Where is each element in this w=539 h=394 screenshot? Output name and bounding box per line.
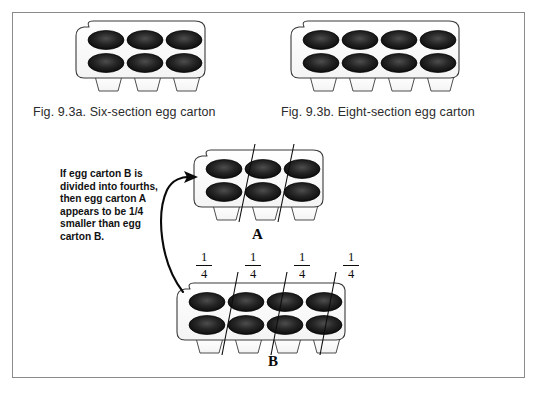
fraction-numerator: 1 [289,251,315,265]
carton-six-section-top-left [76,21,205,91]
carton-a [194,144,323,222]
caption-fig-9-3b: Fig. 9.3b. Eight-section egg carton [281,105,475,119]
annotation-note: If egg carton B is divided into fourths,… [60,168,164,244]
fraction-denominator: 4 [191,267,217,281]
carton-b [177,272,345,355]
fraction-denominator: 4 [289,267,315,281]
caption-fig-9-3a: Fig. 9.3a. Six-section egg carton [33,105,216,119]
figure-root: Fig. 9.3a. Six-section egg carton Fig. 9… [0,0,539,394]
fraction-bar [294,265,310,266]
fraction-numerator: 1 [240,251,266,265]
fraction-denominator: 4 [338,267,364,281]
fraction-numerator: 1 [191,251,217,265]
fraction-bar [245,265,261,266]
fraction-one-fourth: 1 4 [191,251,217,280]
fraction-bar [343,265,359,266]
carton-a-label: A [252,226,263,243]
fraction-numerator: 1 [338,251,364,265]
fraction-one-fourth: 1 4 [289,251,315,280]
fraction-denominator: 4 [240,267,266,281]
fraction-bar [196,265,212,266]
carton-eight-section-top-right [291,21,459,91]
fraction-one-fourth: 1 4 [240,251,266,280]
carton-b-label: B [268,353,278,370]
fraction-one-fourth: 1 4 [338,251,364,280]
